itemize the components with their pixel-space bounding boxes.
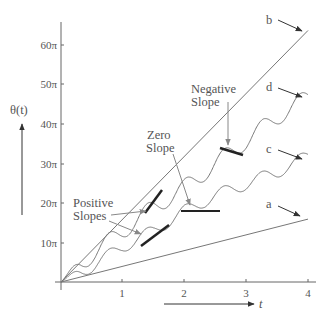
- annotation-zero-line1: Zero: [147, 128, 171, 142]
- series-d-arrow: [278, 88, 302, 97]
- annotation-zero-line2: Slope: [146, 141, 175, 155]
- y-tick-60pi: 60π: [40, 39, 57, 51]
- chart: 10π 20π 30π 40π 50π 60π 1 2 3 4 θ(t) t b…: [0, 0, 328, 320]
- chart-svg: 10π 20π 30π 40π 50π 60π 1 2 3 4 θ(t) t b…: [0, 0, 328, 320]
- series-b-label: b: [266, 13, 272, 27]
- annotation-negative-line2: Slope: [191, 95, 220, 109]
- series-d-label: d: [266, 80, 273, 94]
- annotation-zero-arrow: [173, 154, 190, 205]
- annotation-positive-line2: Slopes: [73, 209, 106, 223]
- x-tick-3: 3: [243, 287, 249, 299]
- annotation-negative-line1: Negative: [191, 82, 237, 96]
- x-axis-label: t: [259, 297, 263, 311]
- y-tick-10pi: 10π: [40, 237, 57, 249]
- series-a-arrow: [278, 206, 300, 216]
- y-tick-30pi: 30π: [40, 158, 57, 170]
- x-tick-1: 1: [119, 287, 125, 299]
- x-tick-2: 2: [181, 287, 187, 299]
- series-b-arrow: [278, 20, 302, 31]
- series-a-label: a: [266, 197, 272, 211]
- annotation-positive-line1: Positive: [73, 196, 114, 210]
- y-axis-label: θ(t): [10, 103, 28, 117]
- x-tick-4: 4: [305, 287, 311, 299]
- y-tick-50pi: 50π: [40, 78, 57, 90]
- series-b-line: [61, 30, 308, 282]
- y-tick-20pi: 20π: [40, 197, 57, 209]
- series-c-label: c: [266, 142, 272, 156]
- y-tick-40pi: 40π: [40, 118, 57, 130]
